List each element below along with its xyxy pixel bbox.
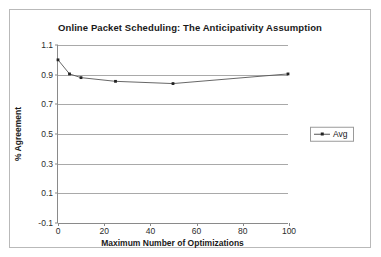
- y-tick-label: 0.3: [41, 159, 53, 169]
- x-tick-label: 100: [282, 226, 296, 236]
- x-tick-label: 40: [146, 226, 155, 236]
- x-tick-label: 60: [192, 226, 201, 236]
- y-axis-title: % Agreement: [13, 107, 23, 161]
- y-tick-label: 0.5: [41, 129, 53, 139]
- legend: Avg: [310, 127, 354, 142]
- y-tick-label: 0.1: [41, 188, 53, 198]
- plot-area: -0.10.10.30.50.70.91.1 020406080100: [57, 45, 288, 223]
- x-tick-label: 80: [238, 226, 247, 236]
- legend-marker-icon: [314, 131, 330, 138]
- x-tick-label: 20: [99, 226, 108, 236]
- y-tick-label: -0.1: [38, 218, 53, 228]
- y-tick-label: 1.1: [41, 40, 53, 50]
- y-tick-label: 0.7: [41, 99, 53, 109]
- y-tick-label: 0.9: [41, 70, 53, 80]
- x-axis-title: Maximum Number of Optimizations: [57, 238, 288, 248]
- legend-label-avg: Avg: [333, 130, 348, 139]
- series-line-avg: [58, 45, 288, 223]
- chart-frame: Online Packet Scheduling: The Anticipati…: [9, 9, 371, 248]
- gridline-y: [58, 223, 288, 224]
- x-tick-label: 0: [56, 226, 61, 236]
- chart-title: Online Packet Scheduling: The Anticipati…: [10, 22, 370, 33]
